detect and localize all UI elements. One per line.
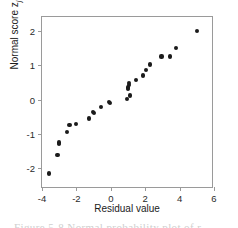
y-axis-tick [38,168,42,169]
x-axis-tick [145,187,146,191]
data-point [174,46,178,50]
data-point [47,171,51,175]
scatter-series [42,17,212,187]
y-axis-tick-label: 1 [30,60,35,71]
data-point [148,62,152,66]
data-point [92,111,96,115]
data-point [159,54,163,58]
x-axis-label: Residual value [41,203,213,214]
y-axis-tick [38,100,42,101]
data-point [141,73,145,77]
y-axis-label-subscript: j [9,1,20,3]
data-point [65,130,69,134]
y-axis-label-text: Normal score z [9,2,20,69]
y-axis-tick [38,134,42,135]
y-axis-tick-label: -1 [27,128,35,139]
figure-caption: Figure 5-8 Normal probability plot of r [14,221,224,228]
data-point [67,123,71,127]
data-point [168,54,172,58]
y-axis-tick-label: -2 [27,163,35,174]
data-point [74,122,78,126]
x-axis-tick [214,187,215,191]
x-axis-tick [180,187,181,191]
x-axis-tick [42,187,43,191]
figure-normal-probability-plot: -4-20246-2-1012 Residual value Normal sc… [0,0,238,228]
data-point [87,116,91,120]
data-point [128,93,132,97]
data-point [108,101,112,105]
x-axis-tick [111,187,112,191]
y-axis-label: Normal score zj [9,0,23,121]
plot-area: -4-20246-2-1012 [41,16,213,188]
data-point [57,142,61,146]
y-axis-tick [38,31,42,32]
y-axis-tick-label: 2 [30,25,35,36]
x-axis-tick [76,187,77,191]
data-point [55,153,59,157]
y-axis-tick [38,65,42,66]
data-point [99,105,103,109]
data-point [195,29,199,33]
y-axis-tick-label: 0 [30,94,35,105]
data-point [134,78,138,82]
data-point [144,68,148,72]
